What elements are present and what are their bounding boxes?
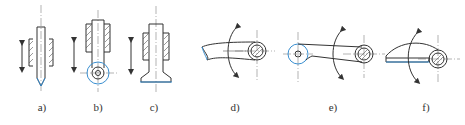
panel-f-oscillating-flat-faced [386, 32, 460, 82]
label-f: f) [411, 101, 441, 113]
oscillation-arrow [408, 32, 418, 82]
label-b: b) [83, 101, 113, 113]
oscillation-arrow [333, 30, 342, 78]
guide-left-hatch [29, 39, 33, 66]
panel-c-flat-faced-follower [131, 6, 172, 92]
guide-right-hatch [163, 33, 169, 60]
label-a: a) [27, 101, 57, 113]
label-e: e) [318, 101, 348, 113]
guide-left-hatch [143, 33, 149, 60]
guide-right-hatch [104, 24, 110, 52]
oscillation-arrow [228, 27, 237, 76]
panel-a-knife-edge-follower [22, 5, 53, 92]
guide-left-hatch [86, 24, 92, 52]
label-c: c) [139, 101, 169, 113]
panel-e-oscillating-roller [283, 30, 385, 82]
panel-d-oscillating-knife-edge [202, 27, 275, 82]
panel-b-roller-follower [74, 10, 118, 92]
label-d: d) [220, 101, 250, 113]
guide-right-hatch [49, 39, 53, 66]
